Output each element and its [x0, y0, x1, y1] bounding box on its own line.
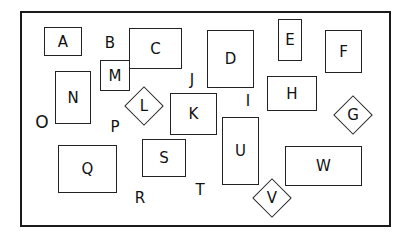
letter-t: T [190, 180, 210, 200]
letter-j: J [182, 70, 202, 90]
letter-p: P [105, 117, 125, 137]
letter-r: R [130, 188, 150, 208]
box-c: C [129, 28, 182, 69]
diamond-v-label: V [252, 188, 292, 208]
box-d: D [207, 30, 254, 88]
box-n-label: N [67, 89, 78, 107]
box-e: E [278, 19, 302, 61]
box-f: F [325, 30, 362, 73]
letter-b: B [100, 33, 120, 53]
letter-o: O [32, 112, 52, 132]
box-h: H [267, 76, 317, 111]
box-c-label: C [150, 40, 160, 58]
box-w-label: W [316, 157, 331, 175]
box-q: Q [58, 145, 117, 193]
box-e-label: E [285, 31, 294, 49]
box-k-label: K [189, 105, 199, 123]
box-m-label: M [109, 67, 122, 85]
box-q-label: Q [82, 160, 94, 178]
box-k: K [170, 93, 217, 135]
box-w: W [285, 146, 362, 186]
box-n: N [55, 71, 91, 124]
box-s-label: S [159, 149, 169, 167]
box-u-label: U [235, 142, 246, 160]
diamond-g-label: G [333, 105, 373, 125]
box-u: U [222, 117, 259, 185]
box-s: S [142, 139, 186, 177]
box-m: M [100, 60, 130, 91]
box-a-label: A [58, 33, 68, 51]
box-f-label: F [339, 43, 348, 61]
diamond-l-label: L [124, 96, 164, 116]
box-a: A [44, 27, 82, 56]
letter-i: I [238, 91, 258, 111]
box-h-label: H [286, 85, 297, 103]
box-d-label: D [225, 50, 237, 68]
